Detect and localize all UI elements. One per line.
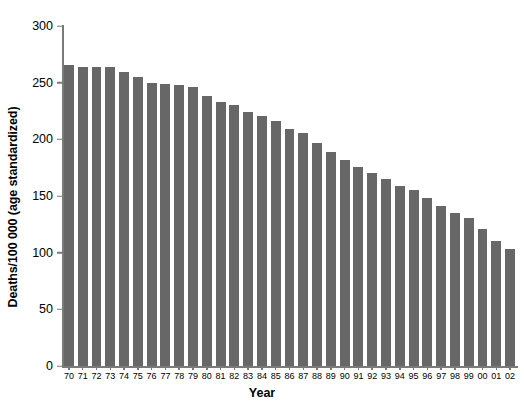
y-axis-tick-mark: [57, 25, 62, 27]
bar: [64, 65, 74, 366]
x-axis-tick-label: 73: [105, 372, 115, 381]
y-axis-tick-mark: [57, 195, 62, 197]
x-axis-tick-mark: [137, 366, 139, 370]
x-axis-tick-label: 90: [340, 372, 350, 381]
x-axis-tick-mark: [151, 366, 153, 370]
y-axis-tick: 250: [32, 76, 62, 89]
x-axis-tick-label: 86: [284, 372, 294, 381]
y-axis-tick-label: 300: [32, 20, 57, 33]
x-axis-tick: 78: [174, 366, 184, 381]
x-axis-tick-label: 96: [422, 372, 432, 381]
x-axis-tick-label: 91: [353, 372, 363, 381]
x-axis-tick-mark: [96, 366, 98, 370]
x-axis-tick: 71: [78, 366, 88, 381]
x-axis-tick-mark: [399, 366, 401, 370]
x-axis-tick-label: 99: [464, 372, 474, 381]
x-axis-tick-label: 72: [91, 372, 101, 381]
bar: [450, 213, 460, 366]
x-axis-tick-mark: [234, 366, 236, 370]
x-axis-tick-mark: [427, 366, 429, 370]
x-axis-tick-mark: [220, 366, 222, 370]
x-axis-tick-label: 75: [133, 372, 143, 381]
x-axis-tick-mark: [330, 366, 332, 370]
x-axis-tick-mark: [123, 366, 125, 370]
x-axis-tick-mark: [454, 366, 456, 370]
x-axis-tick: 90: [340, 366, 350, 381]
x-axis-tick-label: 92: [367, 372, 377, 381]
bar: [257, 116, 267, 366]
x-axis-tick-mark: [496, 366, 498, 370]
x-axis-tick-label: 82: [229, 372, 239, 381]
bar: [92, 67, 102, 366]
bar: [436, 206, 446, 366]
x-axis-tick-mark: [482, 366, 484, 370]
y-axis-tick: 300: [32, 20, 62, 33]
x-axis-tick-label: 00: [478, 372, 488, 381]
x-axis-tick: 73: [105, 366, 115, 381]
y-axis-tick: 150: [32, 190, 62, 203]
y-axis-tick: 100: [32, 246, 62, 259]
x-axis-tick-mark: [289, 366, 291, 370]
x-axis-tick-label: 78: [174, 372, 184, 381]
x-axis-tick: 79: [188, 366, 198, 381]
x-axis-tick-label: 88: [312, 372, 322, 381]
bar: [229, 105, 239, 366]
x-axis-tick-label: 80: [202, 372, 212, 381]
bar: [105, 67, 115, 366]
bar: [188, 87, 198, 366]
x-axis-tick: 96: [422, 366, 432, 381]
x-axis-tick: 00: [478, 366, 488, 381]
bar: [395, 186, 405, 366]
bar: [119, 72, 129, 366]
bar: [312, 143, 322, 366]
x-axis-tick: 99: [464, 366, 474, 381]
x-axis-tick-label: 77: [160, 372, 170, 381]
y-axis-tick-mark: [57, 252, 62, 254]
x-axis-tick-mark: [413, 366, 415, 370]
y-axis-tick-mark: [57, 139, 62, 141]
x-axis-tick-mark: [192, 366, 194, 370]
x-axis-tick-mark: [371, 366, 373, 370]
x-axis-tick: 80: [202, 366, 212, 381]
x-axis-tick: 83: [243, 366, 253, 381]
x-axis-tick-mark: [468, 366, 470, 370]
y-axis-tick-label: 200: [32, 133, 57, 146]
bar: [409, 190, 419, 366]
x-axis-tick: 98: [450, 366, 460, 381]
x-axis-tick-mark: [206, 366, 208, 370]
x-axis-tick-mark: [344, 366, 346, 370]
x-axis-tick-mark: [68, 366, 70, 370]
x-axis-tick-label: 70: [64, 372, 74, 381]
y-axis-tick-mark: [57, 365, 62, 367]
x-axis-tick: 91: [353, 366, 363, 381]
x-axis-tick: 75: [133, 366, 143, 381]
x-axis-tick: 77: [160, 366, 170, 381]
bar: [491, 241, 501, 366]
bar: [243, 112, 253, 366]
y-axis-tick-label: 150: [32, 190, 57, 203]
x-axis-tick: 89: [326, 366, 336, 381]
bar: [367, 173, 377, 366]
x-axis-tick-mark: [109, 366, 111, 370]
x-axis-tick: 93: [381, 366, 391, 381]
bar: [216, 102, 226, 366]
bar: [285, 129, 295, 366]
x-axis-tick-mark: [358, 366, 360, 370]
bar-chart-figure: Deaths/100 000 (age standardized) 050100…: [0, 0, 524, 414]
x-axis-tick-label: 97: [436, 372, 446, 381]
bar: [381, 179, 391, 366]
x-axis-tick-mark: [165, 366, 167, 370]
x-axis-tick-mark: [82, 366, 84, 370]
y-axis-tick: 0: [46, 360, 62, 373]
x-axis-tick-label: 95: [409, 372, 419, 381]
x-axis-tick: 76: [147, 366, 157, 381]
x-axis-tick-label: 83: [243, 372, 253, 381]
x-axis-tick-label: 85: [271, 372, 281, 381]
bar: [505, 249, 515, 366]
x-axis-tick: 01: [491, 366, 501, 381]
bar: [78, 67, 88, 366]
x-axis-tick: 95: [409, 366, 419, 381]
y-axis-tick-label: 0: [46, 360, 57, 373]
x-axis-tick-mark: [385, 366, 387, 370]
bar: [353, 167, 363, 366]
